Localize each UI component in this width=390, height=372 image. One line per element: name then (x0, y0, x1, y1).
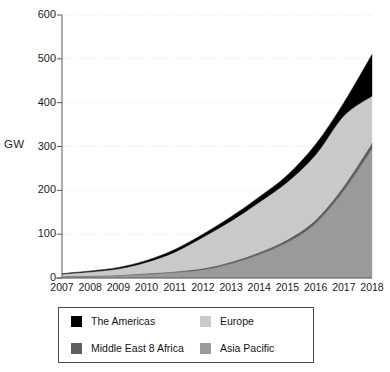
y-tick-label: 300 (20, 141, 56, 152)
x-tick-label: 2011 (160, 282, 190, 293)
y-tick-label: 600 (20, 9, 56, 20)
x-tick-label: 2015 (272, 282, 302, 293)
x-tick-label: 2009 (103, 282, 133, 293)
x-tick-label: 2008 (75, 282, 105, 293)
y-tick-label: 400 (20, 97, 56, 108)
legend-label: Europe (220, 316, 254, 327)
x-tick-label: 2007 (47, 282, 77, 293)
stacked-area-chart: GW 6005004003002001000 20072008200920102… (0, 0, 390, 372)
legend-item[interactable]: Asia Pacific (186, 343, 313, 354)
x-tick-label: 2010 (132, 282, 162, 293)
plot-area: GW 6005004003002001000 (0, 0, 390, 300)
x-tick-label: 2016 (301, 282, 331, 293)
y-axis-ticks: 6005004003002001000 (18, 0, 56, 300)
legend-item[interactable]: The Americas (59, 316, 186, 327)
x-tick-label: 2018 (357, 282, 387, 293)
chart-legend: The AmericasEuropeMiddle East 8 AfricaAs… (58, 307, 314, 363)
legend-label: Middle East 8 Africa (91, 343, 184, 354)
legend-label: The Americas (91, 316, 155, 327)
x-axis-ticks: 2007200820092010201120122013201420152016… (0, 282, 390, 300)
legend-swatch-icon (71, 343, 82, 354)
legend-swatch-icon (200, 316, 211, 327)
legend-swatch-icon (200, 343, 211, 354)
x-tick-label: 2017 (329, 282, 359, 293)
legend-item[interactable]: Europe (186, 316, 313, 327)
legend-item[interactable]: Middle East 8 Africa (59, 343, 186, 354)
x-tick-label: 2013 (216, 282, 246, 293)
chart-canvas (0, 0, 390, 300)
legend-grid: The AmericasEuropeMiddle East 8 AfricaAs… (59, 308, 313, 362)
x-tick-label: 2012 (188, 282, 218, 293)
legend-label: Asia Pacific (220, 343, 274, 354)
y-tick-label: 500 (20, 53, 56, 64)
y-tick-label: 100 (20, 228, 56, 239)
legend-swatch-icon (71, 316, 82, 327)
y-tick-label: 200 (20, 184, 56, 195)
x-tick-label: 2014 (244, 282, 274, 293)
